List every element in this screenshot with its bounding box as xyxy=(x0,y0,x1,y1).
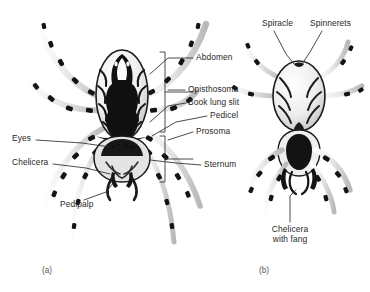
label-spinnerets: Spinnerets xyxy=(310,18,351,28)
label-sternum: Sternum xyxy=(204,159,236,169)
label-chelicera: Chelicera xyxy=(12,157,48,167)
label-prosoma: Prosoma xyxy=(196,126,230,136)
panel-caption-a: (a) xyxy=(42,266,52,275)
label-pedicel: Pedicel xyxy=(210,110,238,120)
label-abdomen: Abdomen xyxy=(196,52,233,62)
ventral-abdomen xyxy=(273,61,325,132)
label-pedipalp: Pedipalp xyxy=(60,199,93,209)
spider-anatomy-figure: Spiracle Spinnerets Abdomen Opisthosoma … xyxy=(0,0,370,292)
label-eyes: Eyes xyxy=(12,133,31,143)
label-book-lung-slit: Book lung slit xyxy=(188,97,239,107)
dorsal-abdomen xyxy=(96,50,148,141)
label-opisthosoma: Opisthosoma xyxy=(188,84,238,94)
label-chelicera-with-fang-line1: Chelicera xyxy=(264,224,316,234)
panel-caption-b: (b) xyxy=(259,266,269,275)
spider-illustration xyxy=(0,0,370,292)
label-chelicera-with-fang-line2: with fang xyxy=(264,234,316,244)
label-spiracle: Spiracle xyxy=(262,18,293,28)
